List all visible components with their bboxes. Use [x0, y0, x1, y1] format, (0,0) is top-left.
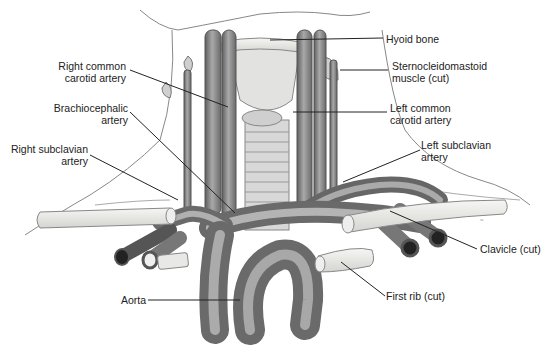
- cricoid-cartilage: [242, 110, 282, 126]
- label-right-subclavian: Right subclavian artery: [0, 143, 88, 167]
- right-clavicle: [37, 208, 174, 228]
- label-clavicle: Clavicle (cut): [480, 243, 541, 255]
- label-line: Left subclavian: [421, 139, 491, 151]
- label-right-common-carotid: Right common carotid artery: [40, 60, 126, 84]
- thyroid-cartilage: [228, 48, 300, 110]
- label-line: artery: [421, 151, 491, 163]
- label-line: Right common: [40, 60, 126, 72]
- label-aorta: Aorta: [100, 294, 146, 306]
- leader-right-subclavian: [90, 155, 178, 200]
- artist-signature: ~: [480, 217, 484, 223]
- label-line: Sternocleidomastoid: [392, 60, 487, 72]
- left-common-carotid: [297, 30, 312, 220]
- label-line: First rib (cut): [386, 290, 445, 302]
- label-sternocleidomastoid: Sternocleidomastoid muscle (cut): [392, 60, 487, 84]
- shoulder-contour-right: [95, 200, 170, 205]
- label-line: muscle (cut): [392, 72, 487, 84]
- label-brachiocephalic: Brachiocephalic artery: [30, 102, 128, 126]
- label-hyoid-bone: Hyoid bone: [386, 33, 439, 45]
- label-line: Hyoid bone: [386, 33, 439, 45]
- label-line: Right subclavian: [0, 143, 88, 155]
- label-line: Left common: [390, 102, 451, 114]
- label-left-common-carotid: Left common carotid artery: [390, 102, 451, 126]
- label-line: artery: [0, 155, 88, 167]
- label-line: Brachiocephalic: [30, 102, 128, 114]
- left-internal-jugular: [314, 30, 326, 205]
- anatomy-illustration: ~: [0, 0, 549, 364]
- right-internal-jugular: [205, 30, 221, 215]
- label-line: Clavicle (cut): [480, 243, 541, 255]
- label-left-subclavian: Left subclavian artery: [421, 139, 491, 163]
- label-first-rib: First rib (cut): [386, 290, 445, 302]
- label-line: carotid artery: [390, 114, 451, 126]
- right-common-carotid: [222, 30, 236, 220]
- cut-vessels-right: [115, 230, 189, 270]
- label-line: Aorta: [100, 294, 146, 306]
- anatomy-figure: ~ Right common carotid artery Brachiocep…: [0, 0, 549, 364]
- label-line: artery: [30, 114, 128, 126]
- first-rib: [318, 248, 374, 272]
- right-scm-stub-lower: [162, 82, 171, 98]
- label-line: carotid artery: [40, 72, 126, 84]
- left-external-jugular: [330, 60, 337, 200]
